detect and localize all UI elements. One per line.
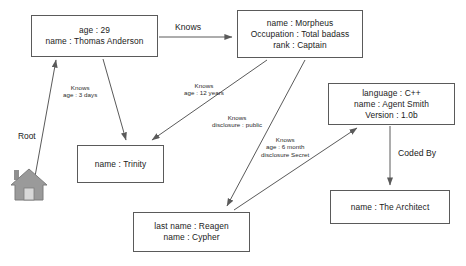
house-icon: [9, 168, 49, 202]
edge-label-thomas-trinity: Knowsage : 3 days: [63, 84, 97, 99]
node-text-line: name : Thomas Anderson: [46, 36, 144, 47]
edge-label-line: age : 6 month: [261, 143, 309, 150]
node-cypher[interactable]: last name : Reagenname : Cypher: [133, 212, 250, 252]
node-text-line: rank : Captain: [273, 40, 327, 51]
edge-label-thomas-morpheus: Knows: [175, 22, 201, 32]
edge-label-line: age : 12 years: [184, 89, 224, 96]
edge-label-agentsmith-architect: Coded By: [398, 148, 436, 158]
node-trinity[interactable]: name : Trinity: [77, 145, 164, 183]
edge-label-morpheus-trinity: Knowsage : 12 years: [184, 82, 224, 97]
node-text-line: Occupation : Total badass: [251, 29, 350, 40]
node-agent-smith[interactable]: language : C++name : Agent SmithVersion …: [328, 83, 455, 125]
node-thomas-anderson[interactable]: age : 29name : Thomas Anderson: [31, 15, 158, 57]
edge-label-cypher-agentsmith: Knowsage : 6 monthdisclosure Secret: [261, 136, 309, 158]
edge-label-morpheus-cypher: Knowsdisclosure : public: [212, 114, 262, 129]
root-label: Root: [18, 131, 36, 141]
node-morpheus[interactable]: name : MorpheusOccupation : Total badass…: [237, 10, 363, 58]
edge-label-line: Knows: [212, 114, 262, 121]
node-text-line: name : Agent Smith: [354, 99, 429, 110]
edge-label-line: Knows: [63, 84, 97, 91]
edge-label-line: disclosure : public: [212, 121, 262, 128]
edge-label-line: age : 3 days: [63, 91, 97, 98]
node-the-architect[interactable]: name : The Architect: [330, 190, 450, 224]
node-text-line: age : 29: [79, 25, 110, 36]
edge-label-line: Knows: [175, 22, 201, 32]
node-text-line: name : The Architect: [351, 202, 430, 213]
edge-thomas-to-trinity: [103, 59, 126, 140]
edge-label-line: Coded By: [398, 148, 436, 158]
node-text-line: language : C++: [362, 88, 421, 99]
edge-label-line: Knows: [184, 82, 224, 89]
edge-root-to-thomas: [34, 60, 56, 182]
node-text-line: Version : 1.0b: [365, 110, 418, 121]
diagram-canvas: Root age : 29name : Thomas Andersonname …: [0, 0, 466, 266]
edge-morpheus-to-cypher: [227, 60, 305, 206]
edge-label-line: disclosure Secret: [261, 151, 309, 158]
node-text-line: name : Cypher: [163, 232, 219, 243]
node-text-line: name : Trinity: [95, 159, 147, 170]
node-text-line: name : Morpheus: [267, 18, 334, 29]
node-text-line: last name : Reagen: [154, 221, 228, 232]
edge-label-line: Knows: [261, 136, 309, 143]
